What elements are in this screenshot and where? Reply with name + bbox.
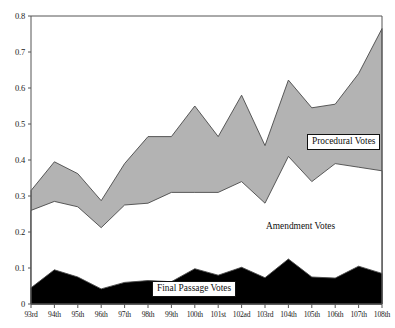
x-axis-tick-label: 108th: [367, 310, 395, 319]
y-axis-tick-label: 0.8: [3, 11, 25, 21]
y-axis-tick-label: 0: [3, 299, 25, 309]
y-axis-tick-label: 0.7: [3, 47, 25, 57]
chart-plot-svg: [0, 0, 395, 328]
y-axis-tick-label: 0.6: [3, 83, 25, 93]
stacked-area-chart: 00.10.20.30.40.50.60.70.8 93rd94th95th96…: [0, 0, 395, 328]
y-axis-tick-label: 0.1: [3, 263, 25, 273]
y-axis-tick-label: 0.2: [3, 227, 25, 237]
amendment-votes-label: Amendment Votes: [266, 221, 335, 231]
final-passage-votes-label: Final Passage Votes: [152, 281, 236, 297]
procedural-votes-label: Procedural Votes: [307, 134, 380, 150]
y-axis-tick-label: 0.5: [3, 119, 25, 129]
y-axis-tick-label: 0.4: [3, 155, 25, 165]
y-axis-tick-label: 0.3: [3, 191, 25, 201]
